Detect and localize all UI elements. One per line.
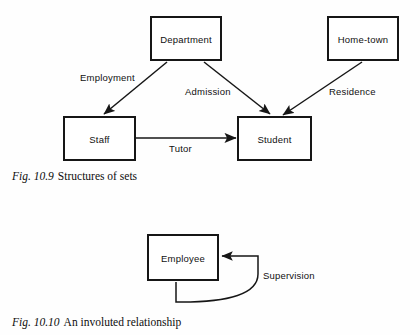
entity-label-department: Department xyxy=(152,33,220,44)
entity-label-home-town: Home-town xyxy=(329,33,397,44)
relationship-label-employment: Employment xyxy=(80,72,135,83)
connector-employment xyxy=(104,62,167,114)
figure-caption-10-9: Fig. 10.9Structures of sets xyxy=(12,170,137,182)
figure-caption-number-10-9: Fig. 10.9 xyxy=(12,170,54,182)
entity-box-student[interactable]: Student xyxy=(237,116,312,161)
relationship-label-supervision: Supervision xyxy=(263,270,315,281)
figure-caption-text-10-10: An involuted relationship xyxy=(64,316,182,328)
relationship-label-residence: Residence xyxy=(329,86,376,97)
entity-box-home-town[interactable]: Home-town xyxy=(327,16,399,61)
entity-label-employee: Employee xyxy=(149,252,217,263)
figure-page: Department Home-town Staff Student Emplo… xyxy=(0,0,420,335)
entity-label-staff: Staff xyxy=(65,133,134,144)
figure-caption-text-10-9: Structures of sets xyxy=(58,170,137,182)
entity-box-staff[interactable]: Staff xyxy=(63,116,136,161)
figure-caption-10-10: Fig. 10.10An involuted relationship xyxy=(12,316,181,328)
relationship-label-tutor: Tutor xyxy=(169,143,192,154)
entity-label-student: Student xyxy=(239,133,310,144)
entity-box-department[interactable]: Department xyxy=(150,16,222,61)
figure-caption-number-10-10: Fig. 10.10 xyxy=(12,316,60,328)
relationship-label-admission: Admission xyxy=(185,86,231,97)
entity-box-employee[interactable]: Employee xyxy=(147,234,219,281)
